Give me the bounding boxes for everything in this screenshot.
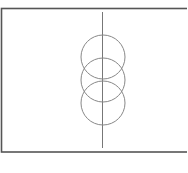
frame-border	[2, 9, 188, 153]
diagram-canvas	[0, 0, 187, 173]
